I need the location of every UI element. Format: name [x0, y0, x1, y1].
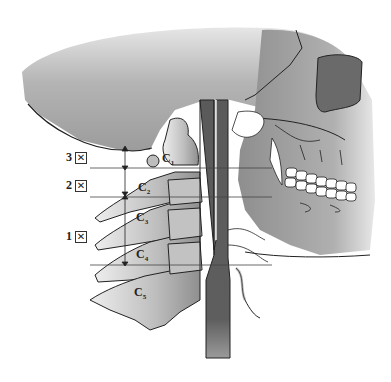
level-label-1: 1 ✕	[66, 229, 87, 244]
level-label-2: 2 ✕	[66, 178, 87, 193]
level-label-3: 3 ✕	[66, 150, 87, 165]
airway-tube	[200, 100, 230, 358]
vertebra-label-c4: C4	[136, 247, 148, 263]
vertebra-label-c5: C5	[134, 285, 146, 301]
vertebra-label-c1: C1	[162, 151, 174, 167]
diagram-artwork	[0, 0, 391, 382]
level-number: 2	[66, 178, 72, 193]
anatomy-diagram: 3 ✕ 2 ✕ 1 ✕ C1 C2 C3 C4 C5	[0, 0, 391, 382]
boxed-x-icon: ✕	[75, 231, 87, 243]
vertebra-label-c3: C3	[136, 210, 148, 226]
vertebra-label-c2: C2	[138, 180, 150, 196]
boxed-x-icon: ✕	[75, 152, 87, 164]
orbit	[316, 55, 362, 112]
boxed-x-icon: ✕	[75, 180, 87, 192]
level-number: 1	[66, 229, 72, 244]
level-number: 3	[66, 150, 72, 165]
